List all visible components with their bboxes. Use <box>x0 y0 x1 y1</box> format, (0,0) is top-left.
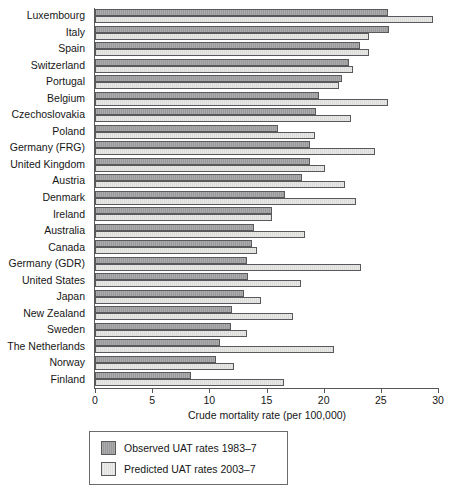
bar-observed <box>95 224 254 231</box>
x-axis-tick <box>209 389 210 393</box>
bar-predicted <box>95 99 388 106</box>
x-axis-tick-label: 20 <box>318 394 330 406</box>
bar-row <box>95 239 438 256</box>
y-axis-label: Germany (GDR) <box>9 258 85 269</box>
y-axis-label: United Kingdom <box>10 159 85 170</box>
bar-observed <box>95 290 244 297</box>
x-axis-tick-label: 5 <box>149 394 155 406</box>
bar-observed <box>95 339 220 346</box>
bar-observed <box>95 9 388 16</box>
bar-row <box>95 305 438 322</box>
bar-observed <box>95 141 310 148</box>
bar-row <box>95 173 438 190</box>
bar-observed <box>95 191 285 198</box>
bar-observed <box>95 92 319 99</box>
bar-row <box>95 58 438 75</box>
bar-predicted <box>95 280 301 287</box>
x-axis-tick <box>381 389 382 393</box>
x-axis-tick-label: 25 <box>375 394 387 406</box>
bar-predicted <box>95 346 334 353</box>
bar-observed <box>95 323 231 330</box>
bar-observed <box>95 306 232 313</box>
y-axis-label: Denmark <box>42 192 85 203</box>
bar-predicted <box>95 49 369 56</box>
legend-swatch-observed-icon <box>101 441 116 455</box>
bar-row <box>95 107 438 124</box>
bar-predicted <box>95 198 356 205</box>
bar-predicted <box>95 363 234 370</box>
bar-observed <box>95 158 310 165</box>
bar-observed <box>95 372 191 379</box>
y-axis-label: Italy <box>66 27 85 38</box>
bar-predicted <box>95 181 345 188</box>
bar-row <box>95 256 438 273</box>
bar-row <box>95 289 438 306</box>
bar-observed <box>95 273 248 280</box>
bar-predicted <box>95 247 257 254</box>
bar-observed <box>95 75 342 82</box>
x-axis-tick <box>267 389 268 393</box>
legend-label-observed: Observed UAT rates 1983–7 <box>124 442 257 454</box>
bar-row <box>95 371 438 388</box>
bar-predicted <box>95 231 305 238</box>
bar-predicted <box>95 313 293 320</box>
bar-observed <box>95 240 252 247</box>
bar-predicted <box>95 115 351 122</box>
y-axis-label: Luxembourg <box>27 10 85 21</box>
bar-predicted <box>95 214 272 221</box>
bar-row <box>95 322 438 339</box>
y-axis-label: Spain <box>58 43 85 54</box>
bar-row <box>95 338 438 355</box>
y-axis-label: United States <box>22 275 85 286</box>
bar-observed <box>95 59 349 66</box>
x-axis-tick-label: 30 <box>432 394 444 406</box>
legend-swatch-predicted-icon <box>101 462 116 476</box>
bar-row <box>95 190 438 207</box>
bar-observed <box>95 26 389 33</box>
plot-area <box>95 8 438 388</box>
bar-row <box>95 74 438 91</box>
bar-row <box>95 41 438 58</box>
bar-row <box>95 157 438 174</box>
bar-predicted <box>95 330 247 337</box>
bar-predicted <box>95 379 284 386</box>
bar-rows <box>95 8 438 388</box>
bar-row <box>95 91 438 108</box>
bar-row <box>95 223 438 240</box>
bar-row <box>95 272 438 289</box>
bar-row <box>95 355 438 372</box>
bar-observed <box>95 42 360 49</box>
y-axis-label: Switzerland <box>31 60 85 71</box>
bar-observed <box>95 207 272 214</box>
y-axis-label: Portugal <box>46 76 85 87</box>
bar-row <box>95 25 438 42</box>
bar-observed <box>95 125 278 132</box>
y-axis-label: Belgium <box>47 93 85 104</box>
bar-predicted <box>95 148 375 155</box>
legend-label-predicted: Predicted UAT rates 2003–7 <box>124 463 256 475</box>
y-axis-label: Canada <box>48 242 85 253</box>
bar-row <box>95 206 438 223</box>
bar-row <box>95 140 438 157</box>
bar-predicted <box>95 132 315 139</box>
y-axis-label: The Netherlands <box>7 341 85 352</box>
bar-observed <box>95 356 216 363</box>
y-axis-label: Australia <box>44 225 85 236</box>
y-axis-label: Sweden <box>47 324 85 335</box>
y-axis-category-labels: LuxembourgItalySpainSwitzerlandPortugalB… <box>0 8 91 388</box>
x-axis-tick <box>152 389 153 393</box>
x-axis-tick-label: 0 <box>92 394 98 406</box>
bar-predicted <box>95 165 325 172</box>
x-axis-tick-label: 15 <box>261 394 273 406</box>
y-axis-label: Ireland <box>53 209 85 220</box>
y-axis-label: Czechoslovakia <box>11 109 85 120</box>
bar-chart: LuxembourgItalySpainSwitzerlandPortugalB… <box>0 0 454 498</box>
bar-predicted <box>95 264 361 271</box>
y-axis-label: Japan <box>56 291 85 302</box>
bar-predicted <box>95 297 261 304</box>
x-axis-tick <box>438 389 439 393</box>
x-axis-tick <box>95 389 96 393</box>
y-axis-label: Finland <box>51 374 85 385</box>
x-axis-title: Crude mortality rate (per 100,000) <box>95 409 439 421</box>
bar-row <box>95 8 438 25</box>
